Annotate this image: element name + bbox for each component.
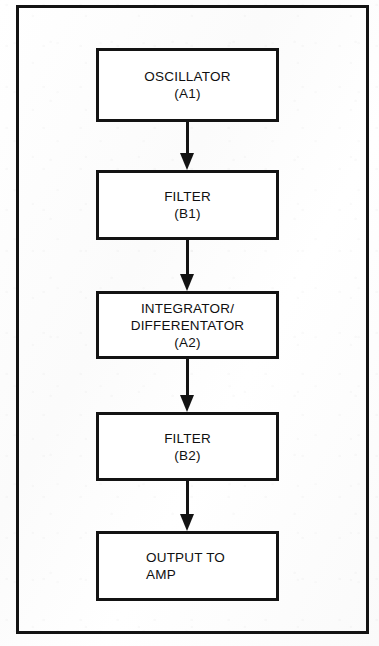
arrow-oscillator-to-filter-b1 xyxy=(180,122,195,170)
block-filter-b2-line-1: FILTER xyxy=(164,430,211,447)
diagram-canvas: OSCILLATOR (A1) FILTER (B1) INTEGRATOR/ … xyxy=(0,0,379,646)
arrow-shaft xyxy=(186,240,189,274)
block-integrator-differentator-line-3: (A2) xyxy=(174,334,200,351)
arrow-head-icon xyxy=(180,514,194,531)
block-filter-b2-line-2: (B2) xyxy=(174,447,200,464)
block-oscillator-line-1: OSCILLATOR xyxy=(144,68,230,85)
arrow-integrator-to-filter-b2 xyxy=(180,359,195,412)
block-integrator-differentator-line-1: INTEGRATOR/ xyxy=(141,300,234,317)
arrow-shaft xyxy=(186,481,189,514)
arrow-head-icon xyxy=(180,395,194,412)
arrow-filter-b2-to-output xyxy=(180,481,195,531)
arrow-shaft xyxy=(186,122,189,153)
block-output-to-amp: OUTPUT TO AMP xyxy=(96,531,279,601)
block-output-to-amp-line-2: AMP xyxy=(146,566,176,583)
block-filter-b1: FILTER (B1) xyxy=(96,170,279,240)
block-output-to-amp-line-1: OUTPUT TO xyxy=(146,549,225,566)
block-oscillator-line-2: (A1) xyxy=(174,85,200,102)
block-filter-b1-line-2: (B1) xyxy=(174,205,200,222)
block-integrator-differentator-line-2: DIFFERENTATOR xyxy=(131,317,245,334)
block-filter-b1-line-1: FILTER xyxy=(164,188,211,205)
block-oscillator: OSCILLATOR (A1) xyxy=(96,48,279,122)
arrow-head-icon xyxy=(180,274,194,291)
block-integrator-differentator: INTEGRATOR/ DIFFERENTATOR (A2) xyxy=(96,291,279,359)
arrow-filter-b1-to-integrator xyxy=(180,240,195,291)
arrow-head-icon xyxy=(180,153,194,170)
arrow-shaft xyxy=(186,359,189,395)
block-filter-b2: FILTER (B2) xyxy=(96,412,279,481)
